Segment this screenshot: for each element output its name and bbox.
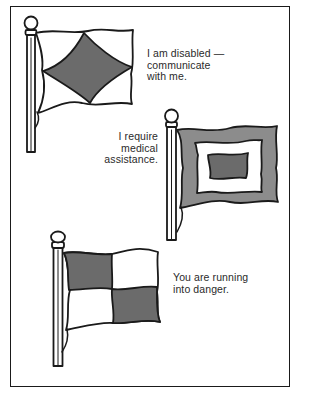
caption-disabled: I am disabled — communicate with me. (147, 48, 224, 83)
caption-line: into danger. (173, 284, 248, 296)
caption-line: with me. (147, 71, 224, 83)
caption-line: I am disabled — (147, 48, 224, 60)
caption-danger: You are running into danger. (173, 272, 248, 295)
flag-danger-icon (51, 232, 160, 367)
flag-medical-icon (165, 110, 278, 241)
caption-medical: I require medical assistance. (100, 131, 158, 166)
caption-line: I require (100, 131, 158, 143)
caption-line: You are running (173, 272, 248, 284)
caption-line: assistance. (100, 154, 158, 166)
